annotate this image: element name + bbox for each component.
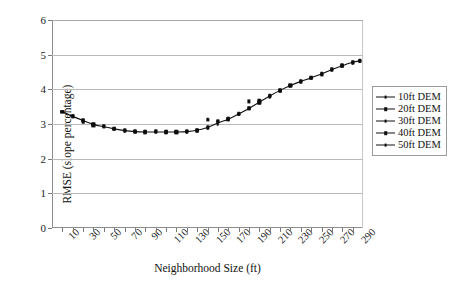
- y-tick-label: 0: [41, 223, 47, 234]
- x-tick-label: 230: [297, 227, 316, 246]
- x-tick-mark: [125, 228, 126, 232]
- x-tick-mark: [93, 228, 94, 232]
- x-axis-title: Neighborhood Size (ft): [52, 262, 363, 274]
- data-point: [165, 130, 168, 133]
- x-tick-mark: [239, 228, 240, 232]
- y-tick-label: 4: [41, 84, 47, 95]
- x-tick-label: 70: [130, 227, 145, 242]
- y-tick-label: 6: [41, 15, 47, 26]
- x-tick-mark: [145, 228, 146, 232]
- x-tick-mark: [176, 228, 177, 232]
- data-point: [71, 115, 74, 118]
- legend-marker-icon: [376, 116, 395, 126]
- data-point: [82, 121, 85, 124]
- x-tick-label: 10: [67, 227, 82, 242]
- x-tick-mark: [332, 228, 333, 232]
- legend-item: 40ft DEM: [376, 127, 441, 139]
- data-point: [206, 118, 209, 121]
- x-tick-mark: [83, 228, 84, 232]
- data-point: [92, 123, 95, 126]
- legend-item: 30ft DEM: [376, 115, 441, 127]
- x-tick-label: 290: [359, 227, 378, 246]
- x-tick-label: 170: [235, 227, 254, 246]
- data-point: [217, 120, 220, 123]
- data-point: [144, 130, 147, 133]
- data-point: [248, 106, 251, 109]
- y-tick-label: 1: [41, 188, 47, 199]
- data-point: [359, 59, 362, 62]
- legend-label: 40ft DEM: [398, 128, 441, 139]
- data-point: [310, 76, 313, 79]
- legend-label: 20ft DEM: [398, 104, 441, 115]
- x-tick-mark: [208, 228, 209, 232]
- x-tick-mark: [270, 228, 271, 232]
- x-tick-label: 110: [172, 227, 190, 245]
- data-point: [196, 128, 199, 131]
- legend-label: 30ft DEM: [398, 116, 441, 127]
- x-tick-label: 90: [150, 227, 165, 242]
- x-tick-mark: [187, 228, 188, 232]
- data-point: [279, 88, 282, 91]
- x-tick-mark: [280, 228, 281, 232]
- data-point: [351, 60, 354, 63]
- x-tick-mark: [342, 228, 343, 232]
- x-tick-mark: [218, 228, 219, 232]
- x-tick-label: 190: [255, 227, 274, 246]
- y-tick-label: 2: [41, 153, 47, 164]
- legend-item: 50ft DEM: [376, 139, 441, 151]
- data-point: [300, 79, 303, 82]
- data-point: [237, 112, 240, 115]
- data-point: [331, 68, 334, 71]
- legend-marker-icon: [376, 140, 395, 150]
- data-point: [154, 130, 157, 133]
- x-tick-label: 270: [338, 227, 357, 246]
- x-tick-mark: [259, 228, 260, 232]
- legend-label: 50ft DEM: [398, 140, 441, 151]
- y-tick-label: 3: [41, 119, 47, 130]
- chart-figure: RMSE (slope percentage) Neighborhood Siz…: [0, 0, 462, 287]
- legend-item: 20ft DEM: [376, 103, 441, 115]
- data-point: [185, 130, 188, 133]
- data-point: [103, 124, 106, 127]
- legend-label: 10ft DEM: [398, 92, 441, 103]
- data-point: [134, 130, 137, 133]
- plot-area: 0123456 10305070901101301501701902102302…: [52, 20, 363, 228]
- data-point: [268, 94, 271, 97]
- x-tick-mark: [290, 228, 291, 232]
- x-tick-mark: [353, 228, 354, 232]
- x-tick-mark: [156, 228, 157, 232]
- data-point: [227, 117, 230, 120]
- y-tick-mark: [48, 228, 52, 229]
- data-point: [206, 125, 209, 128]
- data-point: [341, 64, 344, 67]
- legend: 10ft DEM20ft DEM30ft DEM40ft DEM50ft DEM: [372, 86, 447, 156]
- data-point: [113, 127, 116, 130]
- x-tick-mark: [114, 228, 115, 232]
- data-point: [123, 129, 126, 132]
- x-tick-mark: [166, 228, 167, 232]
- x-tick-label: 150: [214, 227, 233, 246]
- legend-marker-icon: [376, 92, 395, 102]
- x-tick-mark: [322, 228, 323, 232]
- legend-marker-icon: [376, 104, 395, 114]
- trend-line: [52, 20, 363, 228]
- x-tick-mark: [301, 228, 302, 232]
- data-point: [61, 111, 64, 114]
- x-tick-label: 210: [276, 227, 295, 246]
- x-tick-label: 50: [109, 227, 124, 242]
- legend-marker-icon: [376, 128, 395, 138]
- x-tick-mark: [228, 228, 229, 232]
- data-point: [247, 100, 250, 103]
- y-tick-label: 5: [41, 49, 47, 60]
- legend-item: 10ft DEM: [376, 91, 441, 103]
- x-tick-label: 250: [318, 227, 337, 246]
- x-tick-label: 130: [193, 227, 212, 246]
- data-point: [320, 72, 323, 75]
- x-tick-mark: [104, 228, 105, 232]
- data-point: [258, 99, 261, 102]
- x-tick-mark: [197, 228, 198, 232]
- x-tick-mark: [62, 228, 63, 232]
- x-tick-mark: [135, 228, 136, 232]
- data-point: [175, 130, 178, 133]
- data-point: [289, 84, 292, 87]
